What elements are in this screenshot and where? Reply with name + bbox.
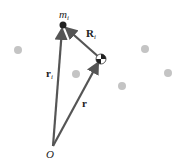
position-vector-label: ri (46, 68, 53, 79)
particle-dot (164, 69, 172, 77)
diagram-svg (0, 0, 188, 163)
center-of-mass-icon (96, 54, 106, 64)
origin-label: O (46, 149, 54, 160)
com-vector-label: r (82, 98, 87, 109)
vector-r-i (53, 29, 62, 146)
mass-i-dot (60, 22, 67, 29)
particle-dot (14, 46, 22, 54)
particle-dot (72, 70, 80, 78)
mass-label: mi (59, 9, 69, 20)
relative-vector-label: Ri (86, 28, 96, 39)
particle-dot (118, 82, 126, 90)
diagram-canvas: mi Ri ri r O (0, 0, 188, 163)
particle-dot (141, 45, 149, 53)
